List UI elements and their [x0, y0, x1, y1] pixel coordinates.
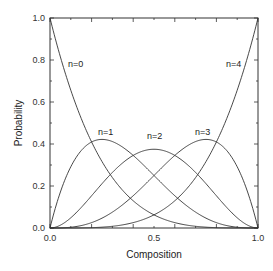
curve-n2	[50, 149, 258, 228]
x-axis-title: Composition	[126, 249, 182, 260]
x-tick-0: 0.0	[44, 233, 57, 243]
y-tick-4: 0.8	[32, 55, 45, 65]
x-tick-2: 1.0	[252, 233, 265, 243]
label-n3: n=3	[195, 127, 210, 137]
x-tick-1: 0.5	[148, 233, 161, 243]
curve-n4	[50, 18, 258, 228]
chart: 0.0 0.2 0.4 0.6 0.8 1.0 0.0 0.5 1.0 Comp…	[0, 0, 273, 271]
label-n4: n=4	[226, 59, 241, 69]
plot-frame	[50, 18, 258, 228]
label-n0: n=0	[68, 59, 83, 69]
y-tick-2: 0.4	[32, 139, 45, 149]
ticks	[50, 18, 258, 228]
y-tick-0: 0.0	[32, 223, 45, 233]
curves	[50, 18, 258, 228]
label-n1: n=1	[98, 127, 113, 137]
y-axis-title: Probability	[13, 100, 24, 147]
y-tick-5: 1.0	[32, 13, 45, 23]
curve-n0	[50, 18, 258, 228]
y-tick-1: 0.2	[32, 181, 45, 191]
label-n2: n=2	[147, 131, 162, 141]
y-tick-3: 0.6	[32, 97, 45, 107]
